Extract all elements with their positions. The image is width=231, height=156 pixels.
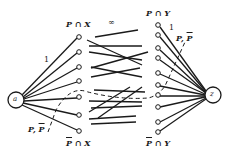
edge-a-x3: [24, 68, 77, 98]
right-node: [156, 23, 161, 28]
label-cut-left: P, P: [28, 124, 45, 134]
right-node: [156, 71, 161, 76]
left-node: [77, 65, 82, 70]
label-infinity: ∞: [108, 18, 115, 27]
right-node: [156, 130, 161, 135]
right-node: [156, 93, 161, 98]
right-node: [156, 120, 161, 125]
label-capacity-left: 1: [44, 55, 49, 64]
edge-mid: [95, 30, 138, 37]
label-p-cap-y: P ∩ Y: [146, 8, 170, 18]
left-node: [77, 129, 82, 134]
label-pbar-cap-x: P ∩ X: [66, 138, 91, 148]
label-cut-right: P, P: [176, 33, 193, 43]
edge-a-x1: [22, 38, 77, 95]
edge-y-z: [160, 99, 206, 131]
right-node: [156, 33, 161, 38]
left-node: [77, 35, 82, 40]
left-node: [77, 79, 82, 84]
source-label: a: [13, 95, 17, 103]
edge-mid: [89, 101, 142, 102]
edge-y-z: [160, 50, 206, 93]
edge-a-x5: [24, 98, 77, 101]
sink-label: z: [210, 90, 214, 98]
label-pbar-cap-y: P ∩ Y: [146, 138, 170, 148]
label-capacity-right: 1: [169, 23, 174, 32]
right-node: [156, 83, 161, 88]
right-node: [156, 105, 161, 110]
left-node: [77, 113, 82, 118]
right-node: [156, 56, 161, 61]
right-node: [156, 46, 161, 51]
label-p-cap-x: P ∩ X: [66, 19, 91, 29]
left-node: [77, 95, 82, 100]
left-node: [77, 50, 82, 55]
edge-mid: [91, 122, 136, 124]
edge-mid: [89, 116, 136, 119]
